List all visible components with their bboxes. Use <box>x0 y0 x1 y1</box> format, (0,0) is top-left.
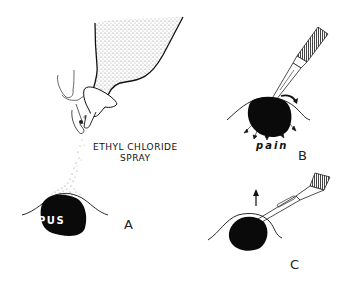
scalpel-b-icon <box>263 27 328 108</box>
illustration-canvas <box>0 0 345 281</box>
abscess-c-icon <box>208 213 282 250</box>
panel-label-b: B <box>298 149 307 162</box>
hand-icon <box>57 70 86 134</box>
ethyl-chloride-bottle-icon <box>84 17 183 128</box>
abscess-drainage-figure: ETHYL CHLORIDE SPRAY PUS A pain B C <box>0 0 345 281</box>
spray-stream <box>52 140 85 196</box>
panel-label-c: C <box>290 258 300 271</box>
pus-label: PUS <box>38 216 65 226</box>
abscess-b-icon <box>227 95 310 137</box>
scalpel-c-icon <box>257 173 330 223</box>
panel-label-a: A <box>124 218 133 231</box>
spray-label-line2: SPRAY <box>93 154 178 163</box>
up-arrow-icon <box>253 189 259 206</box>
pain-label: pain <box>256 141 288 151</box>
abscess-a-icon <box>22 193 108 235</box>
spray-label-line1: ETHYL CHLORIDE <box>93 143 178 152</box>
ethyl-chloride-spray-label: ETHYL CHLORIDE SPRAY <box>93 143 178 163</box>
